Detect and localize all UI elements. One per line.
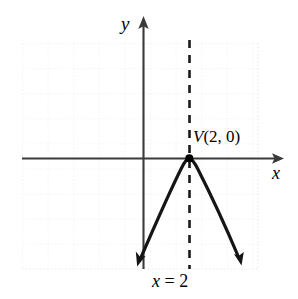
vertex-label-v: V (193, 127, 203, 146)
grid (22, 43, 258, 269)
axis-of-symmetry-label: x = 2 (152, 272, 188, 290)
parabola-figure: y x V(2, 0) x = 2 (0, 0, 298, 299)
vertex-label: V(2, 0) (193, 128, 240, 145)
axis-of-symmetry-label-value: = 2 (160, 271, 188, 291)
y-axis-label: y (121, 14, 129, 33)
vertex-dot (185, 154, 193, 162)
graph-canvas (0, 0, 298, 299)
vertex-label-coords: (2, 0) (203, 127, 240, 146)
x-axis-label: x (272, 164, 280, 182)
axis-of-symmetry-label-x: x (152, 271, 160, 291)
